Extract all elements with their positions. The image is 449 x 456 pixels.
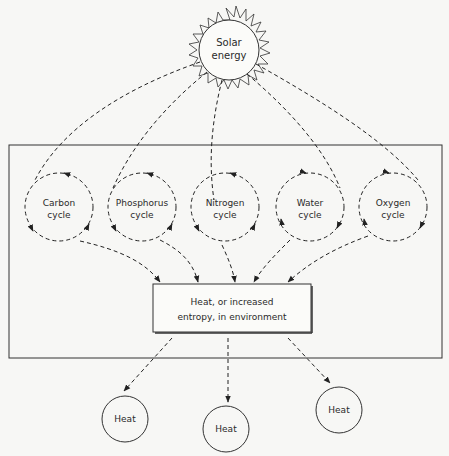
cycle-water-line2: cycle [298, 210, 322, 220]
cycle-phosphorus-line2: cycle [130, 210, 154, 220]
cycle-water-line1: Water [297, 198, 324, 208]
cycle-nitrogen-line1: Nitrogen [206, 198, 245, 208]
cycle-phosphorus: Phosphorus cycle [108, 173, 176, 241]
arrow-sun-to-oxygen [256, 64, 418, 180]
cycle-carbon-line2: cycle [47, 210, 71, 220]
heat-label-1: Heat [114, 414, 136, 424]
solar-input-arrows [34, 62, 418, 200]
cycle-carbon: Carbon cycle [25, 173, 93, 241]
cycle-oxygen-line2: cycle [381, 210, 405, 220]
sink-label-line2: entropy, in environment [178, 312, 287, 322]
heat-output-3: Heat [316, 387, 362, 433]
heat-output-2: Heat [203, 406, 249, 452]
energy-flow-diagram: Solar energy Carbon cycle Phosphorus cyc… [0, 0, 449, 456]
arrow-sun-to-phosphorus [113, 72, 207, 188]
heat-label-2: Heat [215, 424, 237, 434]
sun-label-line2: energy [212, 50, 247, 61]
cycle-phosphorus-line1: Phosphorus [116, 198, 169, 208]
heat-output-arrows [124, 338, 330, 402]
arrow-sun-to-carbon [34, 62, 200, 182]
heat-output-1: Heat [102, 396, 148, 442]
arrow-sun-to-water [247, 74, 340, 188]
sink-label-line1: Heat, or increased [191, 297, 274, 307]
cycle-oxygen-line1: Oxygen [376, 198, 411, 208]
cycle-nitrogen: Nitrogen cycle [191, 173, 259, 241]
cycle-oxygen: Oxygen cycle [359, 171, 427, 241]
cycle-to-sink-arrows [80, 236, 368, 282]
cycle-water: Water cycle [276, 171, 344, 241]
sun-label-line1: Solar [216, 37, 242, 48]
cycle-carbon-line1: Carbon [43, 198, 75, 208]
arrow-sun-to-nitrogen [211, 80, 222, 200]
environment-heat-sink: Heat, or increased entropy, in environme… [153, 284, 312, 333]
cycle-nitrogen-line2: cycle [213, 210, 237, 220]
heat-label-3: Heat [328, 405, 350, 415]
